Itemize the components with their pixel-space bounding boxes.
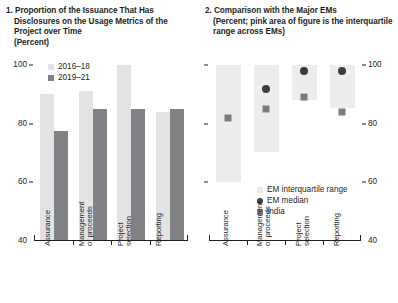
panel-1: 1. Proportion of the Issuance That Has D… bbox=[0, 0, 199, 303]
panel-1-category-label-reporting: Reporting bbox=[155, 213, 163, 246]
panel-2-cat-0-line-0: Assurance bbox=[221, 210, 230, 246]
panel-2-legend-item-iqr: EM interquartile range bbox=[257, 184, 348, 195]
panel-1-plot-area: 100 80 60 40 bbox=[34, 65, 188, 241]
panel-2-tickmark-left-100 bbox=[204, 65, 208, 66]
panel-1-xtick-3 bbox=[150, 241, 151, 245]
panel-2-xtick-2 bbox=[285, 241, 286, 245]
panel-2-number: 2. bbox=[205, 6, 212, 15]
light-square-swatch-icon bbox=[48, 64, 54, 70]
bar-reporting-2019-21 bbox=[170, 109, 184, 241]
panel-2-title-text: Comparison with the Major EMs bbox=[214, 6, 337, 15]
panel-2-category-label-project-selection: Project selection bbox=[295, 216, 312, 246]
panel-2-ytick-60: 60 bbox=[368, 178, 377, 186]
panel-1-ytick-60: 60 bbox=[18, 178, 27, 186]
panel-1-legend-item-2019-21: 2019–21 bbox=[48, 72, 90, 83]
panel-2-category-label-management-of-proceeds: Management of proceeds bbox=[256, 202, 273, 246]
panel-2-category-label-reporting: Reporting bbox=[333, 213, 341, 246]
panel-2-cat-1-line-1: of proceeds bbox=[263, 206, 272, 246]
panel-2: 2. Comparison with the Major EMs (Percen… bbox=[199, 0, 398, 303]
panel-1-cat-0-line-0: Assurance bbox=[43, 210, 52, 246]
panel-2-tickmark-left-80 bbox=[204, 123, 208, 124]
panel-2-y-axis-foot-left bbox=[209, 235, 210, 241]
panel-2-ytick-80: 80 bbox=[368, 120, 377, 128]
panel-2-tickmark-80 bbox=[362, 123, 366, 124]
panel-1-cat-1-line-1: of proceeds bbox=[85, 206, 94, 246]
panel-2-subtitle: (Percent; pink area of figure is the int… bbox=[213, 17, 393, 37]
bar-project-selection-2016-18 bbox=[117, 65, 131, 241]
panel-1-tickmark-60 bbox=[29, 182, 33, 183]
panel-1-legend-label-2016-18: 2016–18 bbox=[58, 61, 90, 72]
panel-2-cat-3-line-0: Reporting bbox=[332, 213, 341, 246]
panel-1-legend-item-2016-18: 2016–18 bbox=[48, 61, 90, 72]
em-median-project-selection bbox=[300, 67, 308, 75]
panel-1-ytick-40: 40 bbox=[18, 237, 27, 245]
panel-1-xtick-1 bbox=[73, 241, 74, 245]
india-value-project-selection bbox=[301, 94, 308, 101]
panel-1-cat-2-line-1: selection bbox=[124, 216, 133, 246]
panel-1-ytick-100: 100 bbox=[13, 61, 27, 69]
panel-1-subtitle: (Percent) bbox=[14, 38, 49, 47]
panel-1-category-label-project-selection: Project selection bbox=[117, 216, 134, 246]
panel-2-ytick-40: 40 bbox=[368, 237, 377, 245]
panel-1-category-label-assurance: Assurance bbox=[44, 210, 52, 246]
panel-2-cat-2-line-1: selection bbox=[302, 216, 311, 246]
panel-2-category-label-assurance: Assurance bbox=[222, 210, 230, 246]
panel-2-tickmark-60 bbox=[362, 182, 366, 183]
panel-1-legend: 2016–18 2019–21 bbox=[48, 61, 90, 83]
figure-container: 1. Proportion of the Issuance That Has D… bbox=[0, 0, 398, 303]
panel-1-y-axis-foot-left bbox=[34, 235, 35, 241]
india-value-reporting bbox=[339, 108, 346, 115]
panel-2-legend-label-em-median: EM median bbox=[267, 195, 308, 206]
panel-2-tickmark-100 bbox=[362, 65, 366, 66]
panel-2-xtick-3 bbox=[323, 241, 324, 245]
dark-square-swatch-icon bbox=[48, 75, 54, 81]
panel-1-ytick-80: 80 bbox=[18, 120, 27, 128]
panel-2-legend-label-iqr: EM interquartile range bbox=[267, 184, 348, 195]
panel-1-tickmark-100 bbox=[29, 65, 33, 66]
panel-2-xtick-1 bbox=[247, 241, 248, 245]
panel-1-category-label-management-of-proceeds: Management of proceeds bbox=[78, 202, 95, 246]
bar-assurance-2019-21 bbox=[54, 131, 68, 241]
iqr-square-swatch-icon bbox=[257, 187, 263, 193]
india-value-assurance bbox=[225, 114, 232, 121]
panel-1-cat-3-line-0: Reporting bbox=[154, 213, 163, 246]
iqr-band-assurance bbox=[216, 65, 241, 182]
panel-1-legend-label-2019-21: 2019–21 bbox=[58, 72, 90, 83]
panel-1-y-axis-foot-right bbox=[187, 235, 188, 241]
panel-1-title: 1. Proportion of the Issuance That Has D… bbox=[6, 6, 194, 48]
panel-2-y-axis-foot-right bbox=[360, 235, 361, 241]
panel-1-tickmark-80 bbox=[29, 123, 33, 124]
panel-1-title-text: Proportion of the Issuance That Has Disc… bbox=[14, 6, 168, 36]
em-median-reporting bbox=[338, 67, 346, 75]
panel-2-title: 2. Comparison with the Major EMs (Percen… bbox=[205, 6, 398, 38]
panel-2-tickmark-left-60 bbox=[204, 182, 208, 183]
india-value-management-of-proceeds bbox=[263, 106, 270, 113]
panel-1-number: 1. bbox=[6, 6, 13, 15]
em-median-management-of-proceeds bbox=[262, 85, 270, 93]
panel-1-xtick-2 bbox=[111, 241, 112, 245]
panel-2-ytick-100: 100 bbox=[368, 61, 382, 69]
